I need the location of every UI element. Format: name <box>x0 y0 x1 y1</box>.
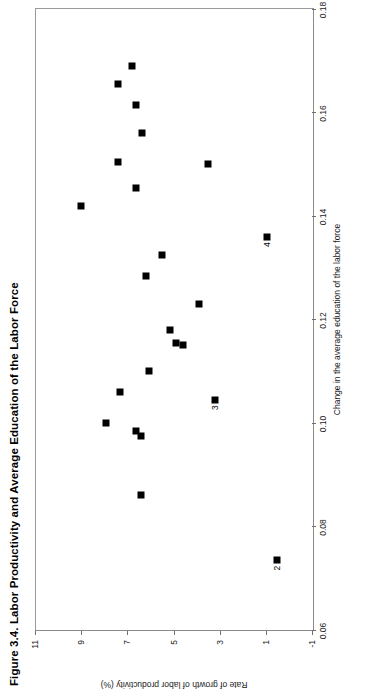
x-tick <box>312 527 316 528</box>
y-tick-label: -1 <box>307 640 317 686</box>
data-point <box>117 388 124 395</box>
data-point <box>179 342 186 349</box>
x-axis-title: Change in the average education of the l… <box>332 8 342 631</box>
data-point <box>133 101 140 108</box>
x-tick-label: 0.14 <box>318 209 328 226</box>
data-point <box>78 202 85 209</box>
y-tick-label: 11 <box>30 640 40 686</box>
x-tick-label: 0.10 <box>318 416 328 433</box>
data-point <box>172 339 179 346</box>
data-point <box>114 158 121 165</box>
y-tick <box>174 631 175 635</box>
y-tick <box>81 631 82 635</box>
data-point-label: 4 <box>262 240 272 247</box>
y-tick <box>266 631 267 635</box>
data-point-label: 3 <box>210 403 220 410</box>
y-axis-title: Rate of growth of labor productivity (%) <box>100 680 247 690</box>
data-point <box>133 184 140 191</box>
data-point <box>138 492 145 499</box>
figure-title: Figure 3.4. Labor Productivity and Avera… <box>8 282 20 686</box>
x-tick <box>312 216 316 217</box>
x-tick-label: 0.18 <box>318 2 328 19</box>
data-point <box>158 251 165 258</box>
x-tick-label: 0.06 <box>318 623 328 640</box>
data-point <box>195 300 202 307</box>
data-point <box>166 326 173 333</box>
data-point <box>204 161 211 168</box>
plot-area: 432 <box>35 8 314 631</box>
x-tick-label: 0.12 <box>318 312 328 329</box>
data-point <box>139 130 146 137</box>
y-tick <box>127 631 128 635</box>
y-tick <box>220 631 221 635</box>
y-tick-label: 9 <box>76 640 86 686</box>
data-point <box>142 272 149 279</box>
x-tick <box>312 423 316 424</box>
y-tick <box>312 631 313 635</box>
data-point <box>128 62 135 69</box>
x-tick <box>312 320 316 321</box>
x-tick-label: 0.16 <box>318 105 328 122</box>
plot-wrapper: 432 0.060.080.100.120.140.160.18 -113579… <box>35 18 365 686</box>
data-point <box>146 368 153 375</box>
figure-page: Figure 3.4. Labor Productivity and Avera… <box>0 0 380 700</box>
data-point <box>103 420 110 427</box>
y-tick-label: 1 <box>261 640 271 686</box>
x-tick-label: 0.08 <box>318 519 328 536</box>
data-point-label: 2 <box>272 563 282 570</box>
data-point <box>114 81 121 88</box>
x-tick <box>312 9 316 10</box>
x-tick <box>312 113 316 114</box>
y-tick <box>35 631 36 635</box>
data-point <box>138 432 145 439</box>
